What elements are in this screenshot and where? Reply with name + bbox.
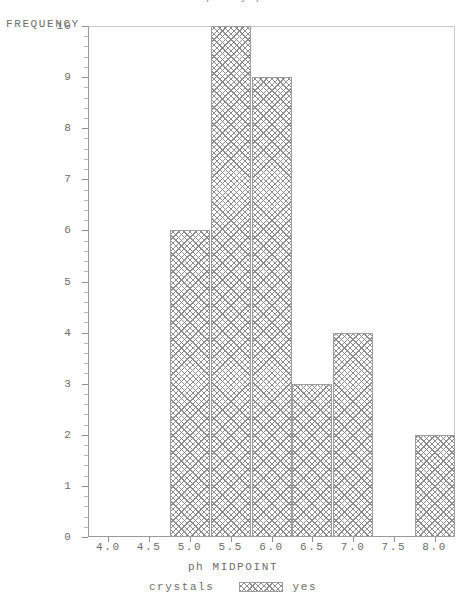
x-axis-ticks: 4.04.55.05.56.06.57.07.58.0 [0, 0, 466, 601]
x-tick-label: 6.5 [300, 541, 325, 553]
x-tick-mark [149, 537, 150, 542]
frequency-histogram-chart: Frequency plot FREQUENCY 012345678910 4.… [0, 0, 466, 601]
x-tick-mark [435, 537, 436, 542]
x-tick-label: 7.5 [382, 541, 407, 553]
x-tick-mark [190, 537, 191, 542]
x-tick-label: 4.5 [137, 541, 162, 553]
x-tick-label: 5.5 [218, 541, 243, 553]
x-tick-mark [353, 537, 354, 542]
x-tick-mark [272, 537, 273, 542]
x-tick-label: 6.0 [259, 541, 284, 553]
chart-legend: crystals yes [0, 581, 466, 593]
x-tick-label: 4.0 [96, 541, 121, 553]
x-tick-label: 7.0 [341, 541, 366, 553]
x-tick-mark [231, 537, 232, 542]
legend-swatch-yes [239, 582, 283, 592]
x-tick-mark [108, 537, 109, 542]
x-tick-mark [394, 537, 395, 542]
x-tick-mark [312, 537, 313, 542]
legend-label-yes: yes [293, 581, 318, 593]
x-axis-title: ph MIDPOINT [0, 561, 466, 573]
legend-title: crystals [149, 581, 229, 593]
x-tick-label: 8.0 [422, 541, 447, 553]
x-tick-label: 5.0 [178, 541, 203, 553]
